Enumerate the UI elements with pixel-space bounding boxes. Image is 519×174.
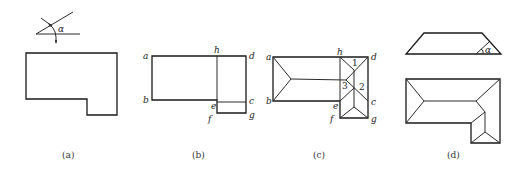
point-label-a: a — [266, 52, 271, 62]
point-label-d: d — [371, 52, 377, 62]
hip-bottom-left — [406, 101, 424, 123]
hip-top-right — [476, 79, 500, 101]
hip-inner-corner — [471, 112, 485, 123]
point-label-e: e — [211, 101, 216, 111]
point-label-g: g — [249, 110, 255, 120]
caption-c: (c) — [313, 150, 325, 160]
region-label-1: 1 — [352, 58, 358, 68]
roof-plan-view — [406, 79, 500, 143]
point-label-e: e — [333, 101, 338, 111]
roof-plan-outline — [406, 79, 500, 143]
figure-d: α (d) — [406, 33, 501, 160]
figure-a: α (a) — [26, 12, 117, 160]
hip-top-left — [406, 79, 424, 101]
point-label-a: a — [143, 51, 148, 61]
caption-d: (d) — [447, 150, 460, 160]
hip-bottom-right-wing — [485, 132, 500, 143]
point-label-d: d — [249, 51, 255, 61]
valley-line — [476, 101, 485, 112]
main-rectangle-abhd — [152, 56, 246, 113]
angle-alpha-label: α — [485, 45, 491, 55]
slope-angle-indicator: α — [36, 12, 80, 44]
hip-a — [273, 57, 291, 79]
arc-arrowhead-bottom — [55, 40, 57, 44]
point-label-g: g — [371, 114, 377, 124]
building-outline-plan — [26, 53, 117, 115]
hip-f — [340, 107, 354, 118]
point-label-c: c — [249, 96, 254, 106]
point-label-b: b — [143, 95, 149, 105]
hip-g — [354, 107, 368, 118]
angle-alpha-label: α — [58, 24, 64, 34]
caption-a: (a) — [62, 150, 74, 160]
point-label-b: b — [266, 96, 272, 106]
point-label-f: f — [329, 114, 335, 124]
region-label-3: 3 — [342, 81, 348, 91]
ridge-main — [291, 79, 346, 80]
point-label-f: f — [207, 114, 213, 124]
figure-c: a b c d e f g h 1 2 3 (c) — [266, 47, 377, 160]
roof-section-view: α — [406, 33, 501, 55]
caption-b: (b) — [192, 150, 205, 160]
hip-b — [273, 79, 291, 101]
point-label-c: c — [371, 97, 376, 107]
diagram-canvas: α (a) a b c d e f g h (b) — [0, 0, 519, 174]
point-label-h: h — [214, 45, 220, 55]
region-label-2: 2 — [359, 82, 365, 92]
hip-bottom-left-wing — [471, 132, 485, 143]
point-label-h: h — [337, 47, 343, 57]
figure-b: a b c d e f g h (b) — [143, 45, 255, 160]
